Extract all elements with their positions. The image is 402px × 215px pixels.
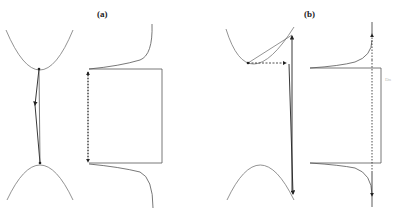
upper-band-curve-a [6,30,73,70]
upper-dos-curve-b [310,40,372,68]
upper-dos-curve-a [89,24,152,69]
diagram-canvas [0,0,402,215]
lower-dos-curve-a [89,164,153,208]
upper-band-curve-b [226,27,294,64]
lower-band-curve-a [7,165,73,200]
panel-a [6,24,162,208]
lower-dos-curve-b [310,163,372,195]
lower-band-curve-b [227,165,294,200]
panel-b [226,22,381,207]
